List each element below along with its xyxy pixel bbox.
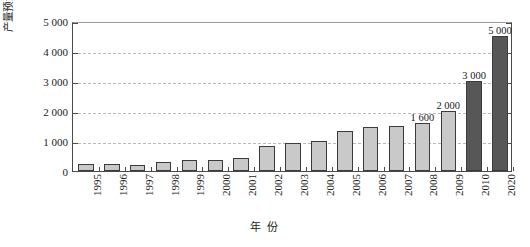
y-tick-label: 5 000 [18, 17, 68, 28]
bar [233, 158, 249, 171]
x-axis-tick [254, 167, 255, 171]
bar [389, 126, 405, 171]
bar-value-label: 1 600 [400, 112, 444, 123]
x-tick-label: 1997 [143, 174, 156, 218]
bar [337, 131, 353, 171]
x-tick-label: 1998 [169, 174, 182, 218]
x-axis-tick [409, 167, 410, 171]
x-tick-label: 2006 [376, 174, 389, 218]
y-tick-label: 3 000 [18, 77, 68, 88]
x-axis-tick [513, 167, 514, 171]
bar [130, 165, 146, 171]
x-axis-tick [332, 167, 333, 171]
bar-value-label: 5 000 [478, 25, 522, 36]
x-axis-tick [177, 167, 178, 171]
bar [182, 160, 198, 171]
bar [156, 162, 172, 171]
x-tick-label: 1999 [194, 174, 207, 218]
plot-area: 1 6002 0003 0005 000 [72, 22, 512, 172]
bar [415, 123, 431, 171]
x-axis-tick [306, 167, 307, 171]
y-tick-label: 4 000 [18, 47, 68, 58]
bar-chart-figure: 产量预测 / 万米³ 01 0002 0003 0004 0005 000 1 … [0, 0, 530, 247]
bar [363, 127, 379, 171]
bar [208, 160, 224, 171]
y-axis-tick-labels: 01 0002 0003 0004 0005 000 [18, 0, 68, 247]
x-tick-label: 2007 [402, 174, 415, 218]
x-tick-label: 2020 [505, 174, 518, 218]
x-tick-label: 2000 [220, 174, 233, 218]
x-tick-label: 1996 [117, 174, 130, 218]
y-tick-label: 0 [18, 167, 68, 178]
x-tick-label: 2010 [479, 174, 492, 218]
bar-value-label: 3 000 [452, 70, 496, 81]
x-tick-label: 2005 [350, 174, 363, 218]
bar [466, 81, 482, 171]
bar [104, 164, 120, 171]
x-axis-tick [151, 167, 152, 171]
x-tick-label: 2002 [272, 174, 285, 218]
bar [492, 36, 508, 171]
x-axis-tick [461, 167, 462, 171]
x-tick-label: 2008 [427, 174, 440, 218]
x-tick-label: 2003 [298, 174, 311, 218]
y-tick-label: 2 000 [18, 107, 68, 118]
bar-value-label: 2 000 [426, 100, 470, 111]
x-axis-title: 年 份 [0, 218, 530, 234]
x-axis-tick [125, 167, 126, 171]
x-tick-label: 2001 [246, 174, 259, 218]
x-axis-tick [280, 167, 281, 171]
x-axis-tick [384, 167, 385, 171]
bar [441, 111, 457, 171]
bar [311, 141, 327, 171]
x-axis-tick [358, 167, 359, 171]
x-axis-tick [202, 167, 203, 171]
x-tick-label: 1995 [91, 174, 104, 218]
y-axis-title: 产量预测 / 万米³ [2, 0, 16, 50]
y-tick-label: 1 000 [18, 137, 68, 148]
bar [259, 146, 275, 172]
x-axis-tick-labels: 1995199619971998199920002001200220032004… [72, 176, 512, 220]
x-axis-tick [99, 167, 100, 171]
bar [285, 143, 301, 172]
bars-layer: 1 6002 0003 0005 000 [73, 23, 511, 171]
x-tick-label: 2004 [324, 174, 337, 218]
x-axis-tick [228, 167, 229, 171]
x-tick-label: 2009 [453, 174, 466, 218]
x-axis-tick [435, 167, 436, 171]
x-axis-tick [487, 167, 488, 171]
bar [78, 164, 94, 171]
